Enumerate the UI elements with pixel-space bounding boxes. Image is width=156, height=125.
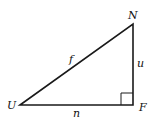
right-triangle-diagram: N U F f u n	[0, 0, 156, 125]
right-angle-marker	[121, 93, 133, 105]
triangle	[20, 24, 133, 105]
side-label-n: n	[73, 107, 80, 120]
vertex-label-n: N	[127, 9, 138, 22]
vertex-label-f: F	[138, 101, 147, 114]
side-label-u: u	[137, 57, 144, 70]
vertex-label-u: U	[7, 99, 17, 112]
side-label-f: f	[68, 53, 75, 66]
